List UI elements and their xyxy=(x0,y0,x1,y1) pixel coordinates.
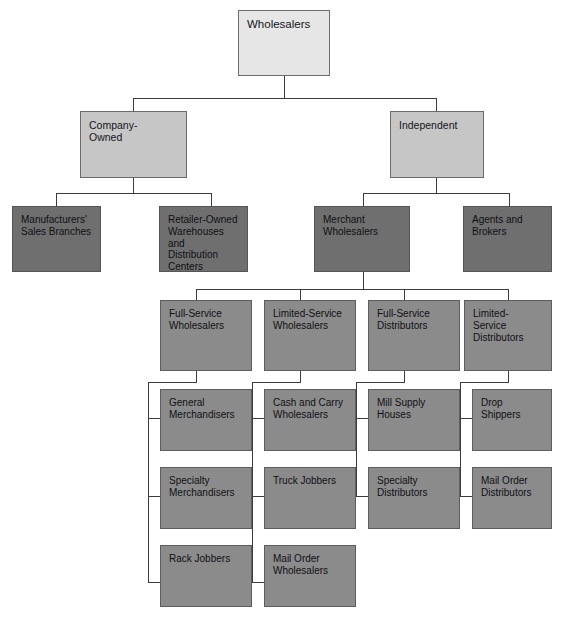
node-independent-label: Independent xyxy=(399,119,476,131)
node-cash-and-carry-wholesalers-label: Cash and Carry Wholesalers xyxy=(273,397,348,421)
node-specialty-distributors-label: Specialty Distributors xyxy=(377,475,452,499)
connector-colB-spine xyxy=(252,382,253,582)
node-cash-and-carry-wholesalers[interactable]: Cash and Carry Wholesalers xyxy=(264,389,356,451)
connector-colA-stub-3 xyxy=(148,582,160,583)
connector-drop-limited-service-distributors xyxy=(508,289,509,300)
node-rack-jobbers[interactable]: Rack Jobbers xyxy=(160,545,252,607)
connector-colD-stub-1 xyxy=(460,418,472,419)
connector-colC-stub-1 xyxy=(356,418,368,419)
node-mill-supply-houses[interactable]: Mill Supply Houses xyxy=(368,389,460,451)
node-retailer-owned-warehouses-label: Retailer-Owned Warehouses and Distributi… xyxy=(168,214,240,272)
connector-merchant-stem xyxy=(363,272,364,289)
node-mail-order-distributors-label: Mail Order Distributors xyxy=(481,475,544,499)
node-limited-service-wholesalers[interactable]: Limited-Service Wholesalers xyxy=(264,300,356,371)
connector-colC-spine xyxy=(356,382,357,496)
connector-drop-agents xyxy=(509,193,510,206)
connector-colD-stem xyxy=(508,371,509,382)
node-truck-jobbers[interactable]: Truck Jobbers xyxy=(264,467,356,529)
connector-colC-top xyxy=(356,382,405,383)
node-merchant-wholesalers[interactable]: Merchant Wholesalers xyxy=(314,206,410,272)
node-limited-service-distributors-label: Limited- Service Distributors xyxy=(473,308,544,343)
connector-company-owned-bus xyxy=(56,193,211,194)
node-retailer-owned-warehouses[interactable]: Retailer-Owned Warehouses and Distributi… xyxy=(159,206,248,272)
connector-drop-company-owned xyxy=(133,98,134,111)
node-specialty-merchandisers-label: Specialty Merchandisers xyxy=(169,475,244,499)
node-general-merchandisers[interactable]: General Merchandisers xyxy=(160,389,252,451)
node-specialty-merchandisers[interactable]: Specialty Merchandisers xyxy=(160,467,252,529)
node-mail-order-distributors[interactable]: Mail Order Distributors xyxy=(472,467,552,529)
connector-colA-spine xyxy=(148,382,149,582)
connector-root-stem xyxy=(284,76,285,98)
node-limited-service-wholesalers-label: Limited-Service Wholesalers xyxy=(273,308,348,332)
org-chart-canvas: Wholesalers Company- Owned Independent M… xyxy=(0,0,562,622)
connector-root-bus xyxy=(133,98,436,99)
connector-drop-full-service-wholesalers xyxy=(196,289,197,300)
node-full-service-distributors-label: Full-Service Distributors xyxy=(377,308,452,332)
node-limited-service-distributors[interactable]: Limited- Service Distributors xyxy=(464,300,552,371)
node-drop-shippers[interactable]: Drop Shippers xyxy=(472,389,552,451)
connector-independent-bus xyxy=(363,193,509,194)
node-company-owned[interactable]: Company- Owned xyxy=(80,111,187,178)
node-mail-order-wholesalers-label: Mail Order Wholesalers xyxy=(273,553,348,577)
node-drop-shippers-label: Drop Shippers xyxy=(481,397,544,421)
node-company-owned-label: Company- Owned xyxy=(89,119,179,144)
connector-colC-stub-2 xyxy=(356,496,368,497)
node-specialty-distributors[interactable]: Specialty Distributors xyxy=(368,467,460,529)
node-merchant-wholesalers-label: Merchant Wholesalers xyxy=(323,214,402,238)
connector-colB-stub-3 xyxy=(252,582,264,583)
connector-independent-stem xyxy=(436,178,437,193)
connector-colA-stub-1 xyxy=(148,418,160,419)
node-manufacturers-sales-branches-label: Manufacturers' Sales Branches xyxy=(21,214,93,238)
connector-colA-stem xyxy=(196,371,197,382)
node-wholesalers[interactable]: Wholesalers xyxy=(238,10,330,76)
connector-drop-manufacturers xyxy=(56,193,57,206)
connector-colD-stub-2 xyxy=(460,496,472,497)
node-agents-and-brokers-label: Agents and Brokers xyxy=(472,214,544,238)
node-rack-jobbers-label: Rack Jobbers xyxy=(169,553,244,565)
node-mail-order-wholesalers[interactable]: Mail Order Wholesalers xyxy=(264,545,356,607)
connector-colD-spine xyxy=(460,382,461,496)
connector-colB-stem xyxy=(300,371,301,382)
connector-drop-independent xyxy=(436,98,437,111)
node-full-service-distributors[interactable]: Full-Service Distributors xyxy=(368,300,460,371)
connector-colA-top xyxy=(148,382,197,383)
node-manufacturers-sales-branches[interactable]: Manufacturers' Sales Branches xyxy=(12,206,101,272)
connector-drop-retailer-owned xyxy=(211,193,212,206)
node-truck-jobbers-label: Truck Jobbers xyxy=(273,475,348,487)
connector-merchant-bus xyxy=(196,289,508,290)
connector-colC-stem xyxy=(404,371,405,382)
node-full-service-wholesalers-label: Full-Service Wholesalers xyxy=(169,308,244,332)
connector-colD-top xyxy=(460,382,509,383)
node-agents-and-brokers[interactable]: Agents and Brokers xyxy=(463,206,552,272)
node-general-merchandisers-label: General Merchandisers xyxy=(169,397,244,421)
connector-drop-merchant xyxy=(363,193,364,206)
connector-company-owned-stem xyxy=(133,178,134,193)
node-mill-supply-houses-label: Mill Supply Houses xyxy=(377,397,452,421)
connector-colA-stub-2 xyxy=(148,496,160,497)
connector-drop-limited-service-wholesalers xyxy=(300,289,301,300)
connector-colB-stub-2 xyxy=(252,496,264,497)
connector-colB-top xyxy=(252,382,301,383)
node-independent[interactable]: Independent xyxy=(390,111,484,178)
node-wholesalers-label: Wholesalers xyxy=(247,18,322,32)
connector-drop-full-service-distributors xyxy=(404,289,405,300)
node-full-service-wholesalers[interactable]: Full-Service Wholesalers xyxy=(160,300,252,371)
connector-colB-stub-1 xyxy=(252,418,264,419)
